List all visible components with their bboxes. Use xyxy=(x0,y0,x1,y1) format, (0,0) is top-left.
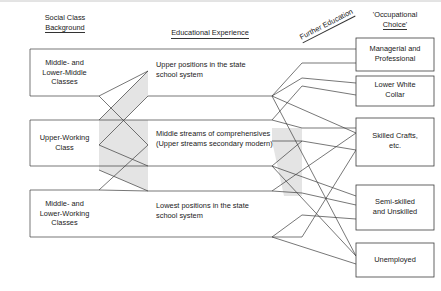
left-label-3-line3: Classes xyxy=(30,218,99,228)
mid1-to-lwc-top xyxy=(302,78,356,83)
left-label-3-line1: Middle- and xyxy=(30,199,99,209)
middle-label-1-line2: school system xyxy=(156,70,246,80)
middle-label-3-line1: Lowest positions in the state xyxy=(156,201,249,211)
header-social-class-background-line2: Background xyxy=(45,23,84,34)
right-label-managerial-and-professional: Managerial and Professional xyxy=(356,44,434,63)
mid3-to-semiskilled-b xyxy=(302,215,356,219)
middle-label-2-line2: (Upper streams secondary modern) xyxy=(156,139,273,149)
header-occupational-choice-line1: 'Occupational xyxy=(356,10,434,20)
right-label-unemployed: Unemployed xyxy=(356,255,434,265)
b3-to-mid3-top xyxy=(99,190,148,191)
header-occupational-choice-line2: Choice' xyxy=(383,20,407,31)
middle-label-upper-positions: Upper positions in the state school syst… xyxy=(156,60,246,80)
right-label-3-line1: Skilled Crafts, xyxy=(356,131,434,141)
header-educational-experience: Educational Experience xyxy=(155,28,265,38)
right-label-semi-skilled-and-unskilled: Semi-skilled and Unskilled xyxy=(356,197,434,216)
right-label-skilled-crafts: Skilled Crafts, etc. xyxy=(356,131,434,150)
mid2-to-skilled-bot xyxy=(302,141,356,150)
mid1-to-skilled xyxy=(272,96,356,133)
mid2-to-lwc xyxy=(302,86,356,95)
left-label-1-line1: Middle- and xyxy=(30,58,99,68)
middle-label-middle-streams: Middle streams of comprehensives (Upper … xyxy=(156,129,273,149)
mid3-to-semiskilled xyxy=(302,193,356,205)
header-social-class-background-line1: Social Class xyxy=(30,13,100,23)
right-label-1-line2: Professional xyxy=(356,54,434,64)
right-label-4-line1: Semi-skilled xyxy=(356,197,434,207)
right-label-2-line1: Lower White xyxy=(356,80,434,90)
left-label-3-line2: Lower-Working xyxy=(30,209,99,219)
right-label-1-line1: Managerial and xyxy=(356,44,434,54)
middle-label-1-line1: Upper positions in the state xyxy=(156,60,246,70)
right-label-lower-white-collar: Lower White Collar xyxy=(356,80,434,99)
mid1-fan-b xyxy=(272,78,302,96)
header-social-class-background: Social Class Background xyxy=(30,13,100,32)
left-label-upper-working-class: Upper-Working Class xyxy=(30,133,99,152)
left-label-2-line2: Class xyxy=(30,143,99,153)
header-educational-experience-label: Educational Experience xyxy=(171,28,249,39)
left-label-1-line2: Lower-Middle xyxy=(30,68,99,78)
left-label-middle-lower-middle-classes: Middle- and Lower-Middle Classes xyxy=(30,58,99,87)
right-label-4-line2: and Unskilled xyxy=(356,207,434,217)
mid3-upper-to-skilled xyxy=(302,150,356,237)
right-label-2-line2: Collar xyxy=(356,90,434,100)
mid3-to-unemployed xyxy=(272,237,356,264)
social-mobility-flow-diagram: Social Class Background Educational Expe… xyxy=(0,0,441,291)
mid3-fan-b xyxy=(272,215,302,237)
middle-label-lowest-positions: Lowest positions in the state school sys… xyxy=(156,201,249,221)
mid2-to-unemployed xyxy=(272,166,356,256)
left-label-2-line1: Upper-Working xyxy=(30,133,99,143)
header-occupational-choice: 'Occupational Choice' xyxy=(356,10,434,29)
right-label-5-line1: Unemployed xyxy=(356,255,434,265)
mid2-fan-b xyxy=(272,120,302,128)
left-label-middle-lower-working-classes: Middle- and Lower-Working Classes xyxy=(30,199,99,228)
right-label-3-line2: etc. xyxy=(356,141,434,151)
middle-label-2-line1: Middle streams of comprehensives xyxy=(156,129,273,139)
left-label-1-line3: Classes xyxy=(30,77,99,87)
right-boxes xyxy=(356,38,434,277)
middle-label-3-line2: school system xyxy=(156,211,249,221)
